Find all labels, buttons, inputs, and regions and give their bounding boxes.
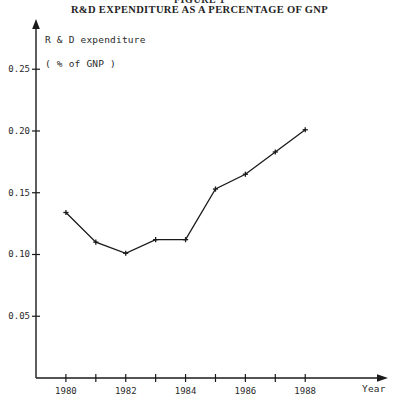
x-axis-tick-label: 1984 (169, 386, 203, 396)
data-line-series (66, 130, 305, 254)
x-axis-tick-label: 1982 (109, 386, 143, 396)
x-axis-tick-label: 1988 (288, 386, 322, 396)
x-axis-tick-label: 1980 (49, 386, 83, 396)
data-point-marker (153, 237, 158, 242)
data-point-marker (123, 251, 128, 256)
y-axis-tick-label: 0.25 (0, 64, 30, 74)
figure-container: FIGURE 1 R&D EXPENDITURE AS A PERCENTAGE… (0, 0, 399, 405)
x-axis-tick-label: 1986 (228, 386, 262, 396)
y-axis-tick-label: 0.05 (0, 311, 30, 321)
y-axis-tick-label: 0.10 (0, 249, 30, 259)
plot-area (0, 0, 399, 405)
y-axis-arrow-icon (32, 19, 40, 29)
y-axis-tick-label: 0.20 (0, 126, 30, 136)
y-axis-tick-label: 0.15 (0, 188, 30, 198)
x-axis-arrow-icon (377, 374, 388, 382)
data-point-markers (63, 127, 308, 256)
